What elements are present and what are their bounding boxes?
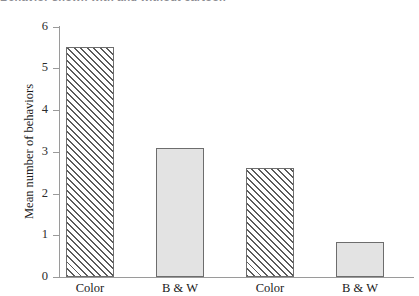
y-axis-tick-label: 4 xyxy=(32,103,48,115)
y-axis-tick: 2 xyxy=(0,194,59,195)
x-axis-tick-label: B & W xyxy=(135,281,225,295)
bar xyxy=(156,148,204,277)
y-axis-tick-label: 2 xyxy=(32,187,48,199)
y-axis-tick: 1 xyxy=(0,235,59,236)
y-axis-tick-label: 6 xyxy=(32,20,48,32)
x-axis-tick-label: B & W xyxy=(315,281,405,295)
y-axis-tick: 5 xyxy=(0,68,59,69)
y-axis-tick-mark xyxy=(53,194,59,195)
bar xyxy=(336,242,384,277)
y-axis-tick-mark xyxy=(53,235,59,236)
bar xyxy=(66,47,114,277)
y-axis-tick: 4 xyxy=(0,110,59,111)
x-axis-line xyxy=(59,277,414,278)
y-axis-tick-label: 5 xyxy=(32,61,48,73)
y-axis-tick-mark xyxy=(53,277,59,278)
y-axis-tick: 3 xyxy=(0,152,59,153)
y-axis-tick-label: 1 xyxy=(32,228,48,240)
y-axis-tick-mark xyxy=(53,68,59,69)
y-axis-line xyxy=(59,26,60,278)
y-axis-tick-mark xyxy=(53,27,59,28)
x-axis-tick-label: Color xyxy=(225,281,315,295)
y-axis-tick-label: 3 xyxy=(32,145,48,157)
bar-chart: Mean number of behaviors 0123456 ColorB … xyxy=(0,0,419,296)
y-axis-tick-mark xyxy=(53,110,59,111)
y-axis-tick-mark xyxy=(53,152,59,153)
y-axis-tick: 6 xyxy=(0,27,59,28)
x-axis-tick-label: Color xyxy=(45,281,135,295)
y-axis-tick: 0 xyxy=(0,277,59,278)
bar xyxy=(246,168,294,277)
